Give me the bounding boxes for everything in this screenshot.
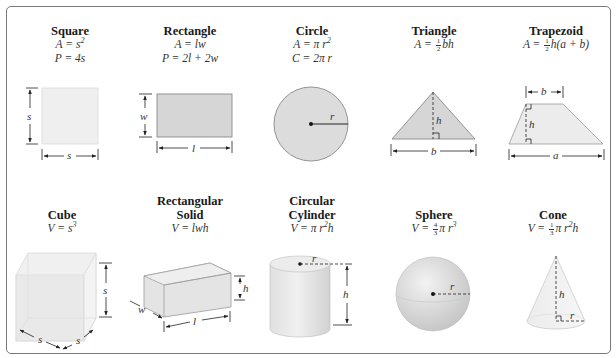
shapes-drawing: s s w l r h b bbox=[0, 0, 616, 358]
trapezoid-figure: b h a bbox=[509, 85, 604, 161]
svg-text:h: h bbox=[343, 288, 349, 300]
rectangular-solid-figure: h w l bbox=[130, 263, 249, 332]
sphere-figure: r bbox=[396, 257, 470, 331]
svg-text:h: h bbox=[436, 114, 442, 126]
svg-text:a: a bbox=[553, 149, 559, 161]
svg-text:s: s bbox=[103, 284, 107, 296]
svg-text:h: h bbox=[529, 118, 535, 130]
cylinder-figure: r h bbox=[270, 252, 352, 337]
svg-text:b: b bbox=[431, 145, 437, 157]
svg-text:s: s bbox=[38, 333, 42, 345]
cube-figure: s s s bbox=[16, 253, 112, 349]
svg-text:l: l bbox=[193, 315, 196, 327]
square-figure: s s bbox=[26, 88, 98, 161]
cone-figure: h r bbox=[527, 256, 585, 329]
svg-text:s: s bbox=[76, 334, 80, 346]
square-side-label: s bbox=[27, 110, 31, 122]
svg-text:w: w bbox=[138, 303, 146, 315]
triangle-figure: h b bbox=[391, 92, 476, 157]
svg-text:l: l bbox=[192, 142, 195, 154]
svg-text:r: r bbox=[450, 280, 455, 292]
svg-text:r: r bbox=[312, 252, 317, 264]
svg-text:s: s bbox=[67, 149, 71, 161]
svg-text:w: w bbox=[140, 110, 148, 122]
rectangle-figure: w l bbox=[139, 94, 232, 154]
svg-text:r: r bbox=[570, 309, 575, 321]
svg-text:b: b bbox=[541, 85, 547, 97]
circle-figure: r bbox=[274, 87, 348, 161]
svg-text:h: h bbox=[243, 282, 249, 294]
svg-text:h: h bbox=[559, 288, 565, 300]
svg-text:r: r bbox=[330, 110, 335, 122]
